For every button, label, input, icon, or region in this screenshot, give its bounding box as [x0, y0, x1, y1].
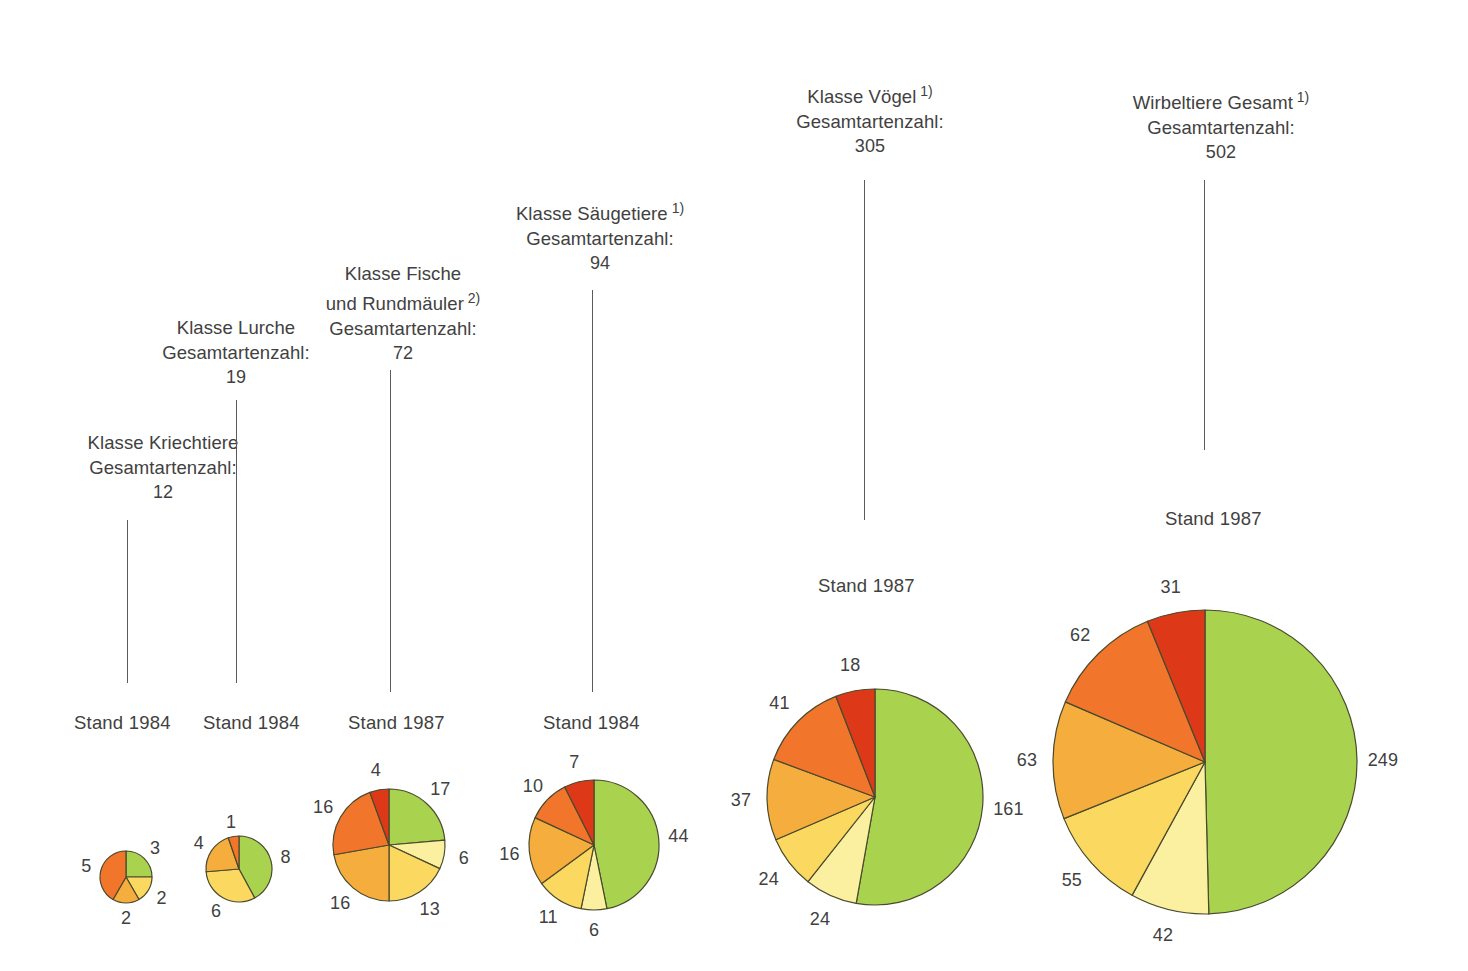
pie-svg: [202, 832, 276, 906]
stand-label-fische: Stand 1987: [348, 712, 445, 734]
pie-svg: [525, 776, 663, 914]
stand-label-voegel: Stand 1987: [818, 575, 915, 597]
chart-caption-kriechtiere: Klasse KriechtiereGesamtartenzahl:12: [88, 430, 239, 505]
slice-value-label: 42: [1153, 924, 1173, 945]
caption-line: Gesamtartenzahl:: [326, 316, 481, 341]
slice-value-label: 4: [371, 760, 381, 781]
slice-value-label: 6: [459, 848, 469, 869]
leader-line-voegel: [864, 180, 865, 520]
caption-line: Klasse Lurche: [162, 315, 310, 340]
slice-value-label: 8: [280, 847, 290, 868]
pie-slice[interactable]: [1205, 610, 1357, 914]
chart-caption-wirbeltiere-gesamt: Wirbeltiere Gesamt 1)Gesamtartenzahl:502: [1133, 85, 1309, 165]
pie-chart-fische[interactable]: [329, 785, 449, 905]
slice-value-label: 6: [589, 920, 599, 941]
caption-total: 12: [88, 480, 239, 505]
leader-line-kriechtiere: [127, 520, 128, 683]
slice-value-label: 37: [731, 790, 751, 811]
footnote-marker: 1): [668, 200, 684, 216]
stand-label-saeugetiere: Stand 1984: [543, 712, 640, 734]
slice-value-label: 18: [840, 655, 860, 676]
chart-canvas: Klasse KriechtiereGesamtartenzahl:12Stan…: [0, 0, 1468, 971]
slice-value-label: 161: [993, 798, 1024, 819]
chart-caption-fische: Klasse Fischeund Rundmäuler 2)Gesamtarte…: [326, 261, 481, 366]
slice-value-label: 16: [499, 843, 519, 864]
caption-line: Gesamtartenzahl:: [1133, 115, 1309, 140]
pie-chart-saeugetiere[interactable]: [525, 776, 663, 914]
caption-total: 94: [516, 251, 684, 276]
pie-chart-kriechtiere[interactable]: [96, 847, 156, 907]
caption-total: 19: [162, 365, 310, 390]
slice-value-label: 2: [156, 887, 166, 908]
slice-value-label: 63: [1017, 749, 1037, 770]
pie-svg: [329, 785, 449, 905]
slice-value-label: 7: [569, 752, 579, 773]
caption-line: Klasse Vögel 1): [796, 79, 944, 109]
chart-caption-saeugetiere: Klasse Säugetiere 1)Gesamtartenzahl:94: [516, 196, 684, 276]
caption-line: Wirbeltiere Gesamt 1): [1133, 85, 1309, 115]
pie-chart-lurche[interactable]: [202, 832, 276, 906]
stand-label-wirbeltiere-gesamt: Stand 1987: [1165, 508, 1262, 530]
chart-caption-voegel: Klasse Vögel 1)Gesamtartenzahl:305: [796, 79, 944, 159]
caption-line: Gesamtartenzahl:: [516, 226, 684, 251]
pie-slice[interactable]: [594, 780, 659, 909]
pie-svg: [763, 685, 987, 909]
leader-line-lurche: [236, 400, 237, 683]
slice-value-label: 24: [810, 909, 830, 930]
chart-caption-lurche: Klasse LurcheGesamtartenzahl:19: [162, 315, 310, 390]
slice-value-label: 249: [1368, 749, 1399, 770]
leader-line-fische: [390, 370, 391, 692]
pie-chart-voegel[interactable]: [763, 685, 987, 909]
slice-value-label: 31: [1160, 577, 1180, 598]
caption-line: Klasse Säugetiere 1): [516, 196, 684, 226]
slice-value-label: 1: [226, 811, 236, 832]
slice-value-label: 44: [668, 826, 688, 847]
caption-line: und Rundmäuler 2): [326, 286, 481, 316]
stand-label-lurche: Stand 1984: [203, 712, 300, 734]
caption-line: Gesamtartenzahl:: [88, 455, 239, 480]
pie-slice[interactable]: [126, 851, 152, 877]
caption-line: Klasse Fische: [326, 261, 481, 286]
caption-line: Gesamtartenzahl:: [796, 109, 944, 134]
pie-slice[interactable]: [389, 789, 445, 845]
slice-value-label: 2: [121, 908, 131, 929]
leader-line-wirbeltiere-gesamt: [1204, 180, 1205, 450]
footnote-marker: 2): [464, 290, 480, 306]
footnote-marker: 1): [916, 83, 932, 99]
pie-svg: [1049, 606, 1361, 918]
footnote-marker: 1): [1293, 89, 1309, 105]
stand-label-kriechtiere: Stand 1984: [74, 712, 171, 734]
caption-line: Klasse Kriechtiere: [88, 430, 239, 455]
caption-total: 305: [796, 134, 944, 159]
pie-svg: [96, 847, 156, 907]
leader-line-saeugetiere: [592, 290, 593, 692]
caption-total: 72: [326, 341, 481, 366]
caption-line: Gesamtartenzahl:: [162, 340, 310, 365]
slice-value-label: 5: [81, 856, 91, 877]
caption-total: 502: [1133, 140, 1309, 165]
pie-chart-wirbeltiere-gesamt[interactable]: [1049, 606, 1361, 918]
